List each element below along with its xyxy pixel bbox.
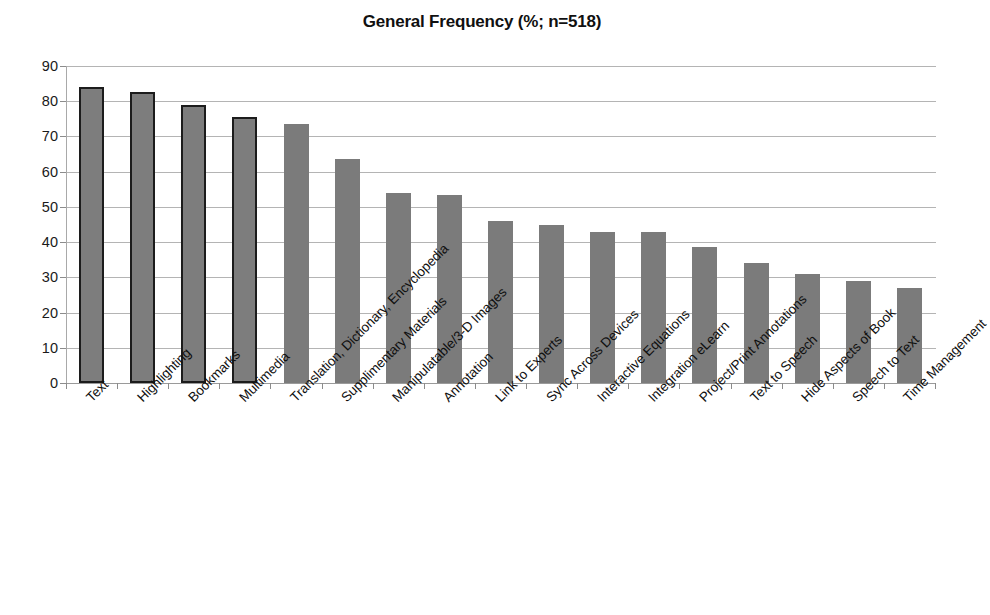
- y-tick-mark: [60, 348, 66, 349]
- bar: [795, 274, 820, 383]
- y-tick-label: 40: [14, 235, 58, 250]
- bar: [181, 105, 206, 383]
- bar: [744, 263, 769, 383]
- bar: [232, 117, 257, 383]
- y-tick-mark: [60, 277, 66, 278]
- y-tick-label: 70: [14, 129, 58, 144]
- y-tick-mark: [60, 136, 66, 137]
- bar: [130, 92, 155, 383]
- y-tick-label: 10: [14, 341, 58, 356]
- y-tick-label: 50: [14, 200, 58, 215]
- bar: [79, 87, 104, 383]
- y-tick-mark: [60, 101, 66, 102]
- y-tick-mark: [60, 66, 66, 67]
- y-tick-mark: [60, 383, 66, 384]
- y-tick-label: 60: [14, 165, 58, 180]
- y-tick-label: 90: [14, 59, 58, 74]
- y-tick-label: 20: [14, 306, 58, 321]
- chart-title: General Frequency (%; n=518): [0, 12, 964, 32]
- y-tick-label: 80: [14, 94, 58, 109]
- y-tick-mark: [60, 313, 66, 314]
- x-axis-labels: TextHighlightingBookmarksMultimediaTrans…: [0, 383, 964, 613]
- bar: [284, 124, 309, 383]
- y-tick-mark: [60, 242, 66, 243]
- y-tick-label: 30: [14, 270, 58, 285]
- y-tick-mark: [60, 172, 66, 173]
- y-tick-mark: [60, 207, 66, 208]
